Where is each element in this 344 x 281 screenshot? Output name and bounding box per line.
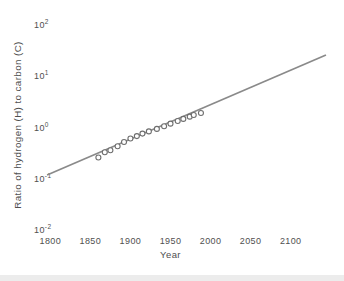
y-tick-label: 100 — [34, 121, 49, 133]
trend-line — [47, 55, 326, 175]
data-point — [154, 126, 159, 131]
data-point — [181, 116, 186, 121]
data-point — [168, 121, 173, 126]
page-edge-strip — [0, 275, 344, 281]
y-tick-label: 102 — [34, 18, 49, 30]
data-point — [191, 113, 196, 118]
data-point — [175, 118, 180, 123]
data-point — [115, 144, 120, 149]
hc-ratio-chart: 10210110010-110-218001850190019502000205… — [0, 0, 344, 281]
x-tick-label: 1850 — [80, 236, 102, 246]
y-axis-title: Ratio of hydrogen (H) to carbon (C) — [12, 41, 23, 209]
y-tick-label: 10-2 — [34, 223, 51, 235]
data-point — [162, 124, 167, 129]
x-tick-label: 2050 — [240, 236, 262, 246]
x-tick-label: 1900 — [120, 236, 142, 246]
data-point — [108, 148, 113, 153]
data-point — [140, 131, 145, 136]
x-tick-label: 1800 — [39, 236, 61, 246]
data-point — [96, 155, 101, 160]
chart-canvas: 10210110010-110-218001850190019502000205… — [0, 0, 344, 281]
x-axis-title: Year — [160, 249, 181, 260]
data-point — [198, 110, 203, 115]
data-point — [134, 134, 139, 139]
data-point — [102, 150, 107, 155]
data-point — [128, 136, 133, 141]
y-tick-label: 101 — [34, 69, 49, 81]
data-point — [146, 129, 151, 134]
data-point — [122, 140, 127, 145]
x-tick-label: 1950 — [160, 236, 182, 246]
x-tick-label: 2000 — [200, 236, 222, 246]
x-tick-label: 2100 — [280, 236, 302, 246]
